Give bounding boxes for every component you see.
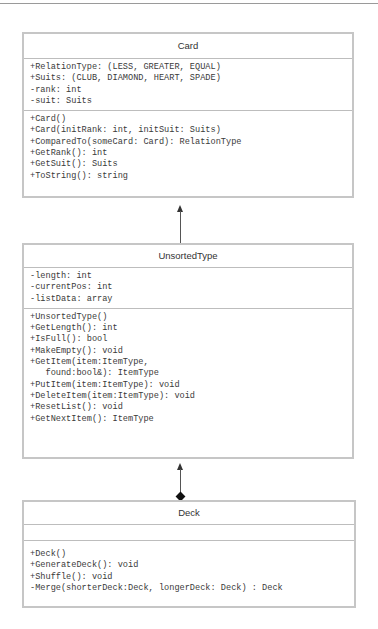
class-name: UnsortedType	[24, 245, 352, 268]
method: +ToString(): string	[30, 171, 352, 182]
class-unsortedtype: UnsortedType -length: int -currentPos: i…	[22, 243, 354, 459]
method: +IsFull(): bool	[30, 334, 352, 345]
attribute: +Suits: (CLUB, DIAMOND, HEART, SPADE)	[30, 73, 352, 84]
attribute: -listData: array	[30, 294, 352, 305]
method: +UnsortedType()	[30, 312, 352, 323]
method: +GetRank(): int	[30, 148, 352, 159]
methods-section: +Deck() +GenerateDeck(): void +Shuffle()…	[24, 541, 354, 597]
class-name: Card	[24, 34, 352, 59]
method: +Deck()	[30, 549, 354, 560]
attributes-section: +RelationType: (LESS, GREATER, EQUAL) +S…	[24, 59, 352, 111]
attribute: -rank: int	[30, 85, 352, 96]
top-rule	[0, 3, 378, 4]
attributes-section	[24, 525, 354, 541]
attribute: -length: int	[30, 271, 352, 282]
method: +Card(initRank: int, initSuit: Suits)	[30, 125, 352, 136]
method: +GetNextItem(): ItemType	[30, 414, 352, 425]
attributes-section: -length: int -currentPos: int -listData:…	[24, 268, 352, 309]
method: +GenerateDeck(): void	[30, 560, 354, 571]
method: +MakeEmpty(): void	[30, 346, 352, 357]
method: +GetItem(item:ItemType,	[30, 357, 352, 368]
class-card: Card +RelationType: (LESS, GREATER, EQUA…	[22, 32, 354, 198]
method: +DeleteItem(item:ItemType): void	[30, 391, 352, 402]
class-name: Deck	[24, 502, 354, 525]
class-deck: Deck +Deck() +GenerateDeck(): void +Shuf…	[22, 500, 356, 608]
methods-section: +UnsortedType() +GetLength(): int +IsFul…	[24, 309, 352, 428]
method: +Shuffle(): void	[30, 572, 354, 583]
connector-line	[180, 211, 181, 243]
method: +Card()	[30, 114, 352, 125]
method: +PutItem(item:ItemType): void	[30, 380, 352, 391]
method: found:bool&): ItemType	[30, 368, 352, 379]
method: +GetLength(): int	[30, 323, 352, 334]
method: +ResetList(): void	[30, 402, 352, 413]
attribute: -suit: Suits	[30, 96, 352, 107]
method: +GetSuit(): Suits	[30, 159, 352, 170]
method: +ComparedTo(someCard: Card): RelationTyp…	[30, 137, 352, 148]
methods-section: +Card() +Card(initRank: int, initSuit: S…	[24, 111, 352, 185]
method: -Merge(shorterDeck:Deck, longerDeck: Dec…	[30, 583, 354, 594]
attribute: -currentPos: int	[30, 282, 352, 293]
attribute: +RelationType: (LESS, GREATER, EQUAL)	[30, 62, 352, 73]
